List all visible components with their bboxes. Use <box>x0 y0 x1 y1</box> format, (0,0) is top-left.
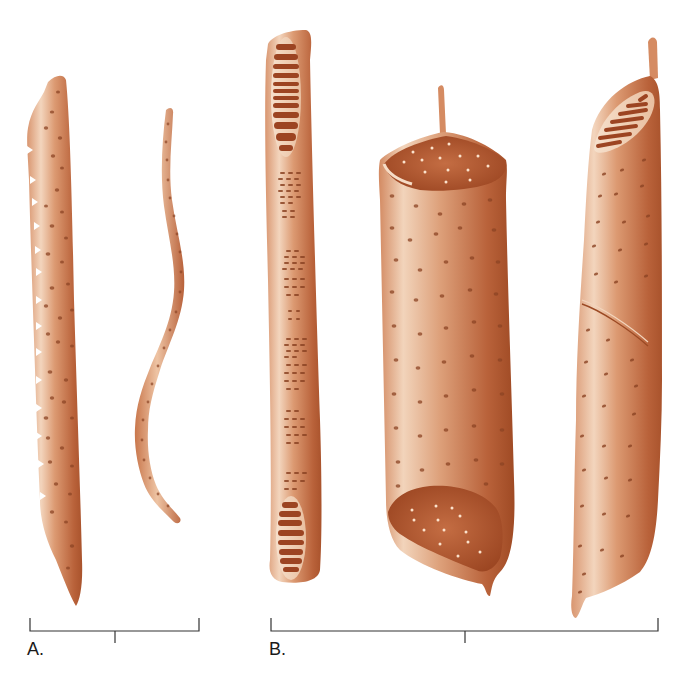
vessel-element-simple <box>379 85 515 596</box>
group-b-vessel-elements <box>265 30 662 643</box>
vessel-element-oblique-scalariform <box>571 38 662 619</box>
scale-bar-b <box>271 618 658 643</box>
vessel-element-scalariform <box>265 30 321 583</box>
scale-bar-a <box>30 618 199 643</box>
group-a-tracheids <box>27 76 199 643</box>
group-b-label: B. <box>269 640 286 658</box>
tracheid-narrow <box>135 108 184 523</box>
xylem-illustration <box>0 0 682 677</box>
tracheid-wide <box>27 76 82 606</box>
group-a-label: A. <box>27 640 44 658</box>
